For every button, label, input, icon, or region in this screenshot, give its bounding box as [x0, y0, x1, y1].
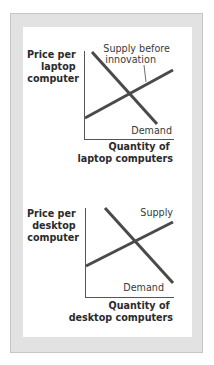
laptop-y-label-line-1: Price per: [27, 49, 76, 60]
desktop-demand-curve: [105, 208, 173, 283]
laptop-y-label-line-3: computer: [27, 73, 79, 84]
laptop-demand-label: Demand: [131, 125, 172, 136]
laptop-y-label-line-2: laptop: [41, 61, 76, 72]
supply-label-line-1: Supply before: [103, 43, 170, 54]
laptop-x-axis-label: Quantity of laptop computers: [77, 141, 173, 164]
desktop-y-label-line-2: desktop: [32, 220, 76, 231]
supply-demand-figure: Price per laptop computer Supply before …: [0, 0, 214, 365]
desktop-market-chart: Price per desktop computer Supply Demand…: [27, 207, 174, 323]
laptop-market-chart: Price per laptop computer Supply before …: [27, 43, 174, 164]
desktop-x-label-line-1: Quantity of: [109, 300, 171, 311]
desktop-y-label-line-3: computer: [27, 232, 79, 243]
supply-label-line-2: innovation: [105, 54, 156, 65]
laptop-x-label-line-2: laptop computers: [77, 153, 173, 164]
laptop-supply-label: Supply before innovation: [103, 43, 173, 65]
desktop-supply-curve: [86, 222, 173, 266]
desktop-y-label-line-1: Price per: [27, 208, 76, 219]
laptop-y-axis-label: Price per laptop computer: [27, 49, 79, 84]
desktop-supply-label: Supply: [140, 207, 173, 218]
desktop-x-label-line-2: desktop computers: [69, 312, 174, 323]
desktop-y-axis-label: Price per desktop computer: [27, 208, 79, 243]
desktop-x-axis-label: Quantity of desktop computers: [69, 300, 174, 323]
laptop-supply-curve: [85, 70, 173, 118]
laptop-x-label-line-1: Quantity of: [109, 141, 171, 152]
supply-label-leader-line: [144, 65, 146, 82]
desktop-demand-label: Demand: [123, 282, 164, 293]
